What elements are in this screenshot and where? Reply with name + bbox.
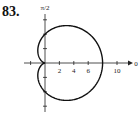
svg-text:10: 10 <box>114 67 122 75</box>
axes <box>24 14 133 112</box>
svg-text:4: 4 <box>72 67 76 75</box>
svg-text:6: 6 <box>86 67 90 75</box>
svg-text:2: 2 <box>58 67 62 75</box>
svg-text:π/2: π/2 <box>41 4 50 12</box>
tick-labels: 24610π/20 <box>41 4 139 75</box>
svg-text:0: 0 <box>134 60 138 68</box>
polar-plot: 24610π/20 <box>0 0 140 121</box>
